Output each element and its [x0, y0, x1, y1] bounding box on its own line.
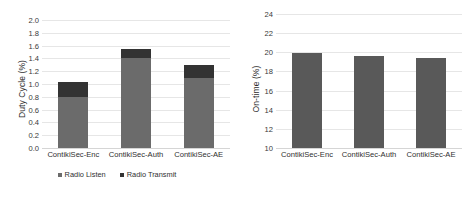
y-axis-tick-label: 14: [265, 105, 273, 114]
legend-swatch-icon: [58, 173, 62, 177]
bar-group: [276, 14, 338, 148]
x-axis-tick-label: ContikiSec-Enc: [276, 150, 338, 159]
bar-segment-radio-transmit: [58, 82, 88, 97]
bar: [416, 58, 446, 148]
legend-item: Radio Listen: [58, 170, 106, 179]
plot-area-duty-cycle: 0.00.20.40.60.81.01.21.41.61.82.0: [42, 20, 230, 148]
y-axis-tick-label: 1.2: [28, 67, 39, 76]
x-axis-labels-on-time: ContikiSec-EncContikiSec-AuthContikiSec-…: [276, 150, 462, 159]
y-axis-tick-label: 16: [265, 86, 273, 95]
bar: [292, 53, 322, 148]
y-axis-tick-label: 12: [265, 124, 273, 133]
y-axis-tick-label: 10: [265, 144, 273, 153]
chart-duty-cycle: Duty Cycle (%) 0.00.20.40.60.81.01.21.41…: [0, 0, 234, 197]
y-axis-tick-label: 1.4: [28, 54, 39, 63]
x-axis-tick-label: ContikiSec-Auth: [105, 150, 168, 159]
bar-group: [338, 14, 400, 148]
gridline: [42, 148, 230, 149]
y-axis-title-duty-cycle: Duty Cycle (%): [17, 49, 27, 129]
legend-duty-cycle: Radio ListenRadio Transmit: [0, 170, 234, 179]
y-axis-tick-label: 0.0: [28, 144, 39, 153]
stacked-bar: [184, 65, 214, 148]
legend-item: Radio Transmit: [120, 170, 177, 179]
x-axis-tick-label: ContikiSec-Enc: [42, 150, 105, 159]
legend-swatch-icon: [120, 173, 124, 177]
y-axis-tick-label: 1.6: [28, 41, 39, 50]
legend-label: Radio Listen: [65, 170, 106, 179]
bar-group: [42, 20, 105, 148]
y-axis-tick-label: 24: [265, 10, 273, 19]
y-axis-title-on-time: On-time (%): [251, 49, 261, 129]
plot-area-on-time: 1012141618202224: [276, 14, 462, 148]
bar-group: [105, 20, 168, 148]
y-axis-tick-label: 0.2: [28, 131, 39, 140]
bar: [354, 56, 384, 148]
bar-group: [400, 14, 462, 148]
y-axis-tick-label: 20: [265, 48, 273, 57]
bar-segment-radio-listen: [58, 97, 88, 148]
x-axis-tick-label: ContikiSec-Auth: [338, 150, 400, 159]
bar-segment-radio-transmit: [121, 49, 151, 58]
y-axis-tick-label: 1.0: [28, 80, 39, 89]
y-axis-tick-label: 0.8: [28, 92, 39, 101]
chart-on-time: On-time (%) 1012141618202224 ContikiSec-…: [234, 0, 468, 197]
bars-on-time: [276, 14, 462, 148]
y-axis-tick-label: 22: [265, 29, 273, 38]
x-axis-tick-label: ContikiSec-AE: [167, 150, 230, 159]
y-axis-tick-label: 0.4: [28, 118, 39, 127]
y-axis-tick-label: 18: [265, 67, 273, 76]
stacked-bar: [58, 82, 88, 148]
bars-duty-cycle: [42, 20, 230, 148]
legend-label: Radio Transmit: [127, 170, 177, 179]
bar-group: [167, 20, 230, 148]
gridline: [276, 148, 462, 149]
y-axis-tick-label: 1.8: [28, 28, 39, 37]
bar-segment-radio-listen: [184, 78, 214, 148]
bar-segment-radio-transmit: [184, 65, 214, 78]
y-axis-tick-label: 0.6: [28, 105, 39, 114]
x-axis-labels-duty-cycle: ContikiSec-EncContikiSec-AuthContikiSec-…: [42, 150, 230, 159]
figure-two-bar-charts: Duty Cycle (%) 0.00.20.40.60.81.01.21.41…: [0, 0, 468, 197]
x-axis-tick-label: ContikiSec-AE: [400, 150, 462, 159]
bar-segment-radio-listen: [121, 58, 151, 148]
stacked-bar: [121, 49, 151, 148]
y-axis-tick-label: 2.0: [28, 16, 39, 25]
